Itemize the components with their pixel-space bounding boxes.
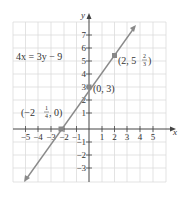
svg-text:−2: −2 bbox=[59, 132, 69, 142]
svg-text:2: 2 bbox=[112, 132, 117, 142]
point-label-0-3: (0, 3) bbox=[93, 83, 115, 95]
point-neg2-1-4-0 bbox=[59, 127, 64, 132]
svg-text:): ) bbox=[148, 55, 151, 67]
point-2-5-2-3 bbox=[112, 53, 117, 58]
svg-text:−2: −2 bbox=[76, 150, 86, 160]
graph: −5 −4 −3 −2 −1 1 2 3 4 5 7 6 5 4 3 2 1 −… bbox=[0, 0, 188, 198]
axes bbox=[13, 17, 172, 182]
y-axis-label: y bbox=[80, 10, 85, 20]
point-label-2-5-2-3: (2, 5 2 3 ) bbox=[118, 53, 151, 67]
point-label-neg2-1-4-0: (−2 1 4 , 0) bbox=[21, 105, 62, 119]
svg-text:(−2: (−2 bbox=[21, 107, 35, 119]
line-arrow-top-icon bbox=[130, 25, 136, 32]
point-0-3 bbox=[87, 85, 92, 90]
svg-text:4: 4 bbox=[45, 113, 48, 119]
svg-text:−3: −3 bbox=[76, 163, 86, 173]
x-tick-labels: −5 −4 −3 −2 −1 1 2 3 4 5 bbox=[21, 132, 156, 142]
svg-text:−5: −5 bbox=[21, 132, 31, 142]
svg-text:3: 3 bbox=[125, 132, 130, 142]
svg-text:, 0): , 0) bbox=[49, 107, 62, 119]
y-axis-arrow-icon bbox=[87, 13, 92, 19]
svg-text:−4: −4 bbox=[33, 132, 43, 142]
svg-text:4: 4 bbox=[138, 132, 143, 142]
svg-text:6: 6 bbox=[82, 43, 87, 53]
svg-text:−1: −1 bbox=[76, 137, 86, 147]
svg-text:1: 1 bbox=[82, 108, 87, 118]
svg-text:5: 5 bbox=[82, 56, 87, 66]
x-axis-label: x bbox=[172, 127, 177, 137]
svg-text:4: 4 bbox=[82, 69, 87, 79]
svg-text:3: 3 bbox=[143, 61, 146, 67]
svg-text:(2, 5: (2, 5 bbox=[118, 55, 136, 67]
svg-text:5: 5 bbox=[151, 132, 156, 142]
equation-label: 4x = 3y − 9 bbox=[16, 51, 62, 62]
svg-text:−3: −3 bbox=[46, 132, 56, 142]
svg-text:1: 1 bbox=[100, 132, 105, 142]
svg-text:7: 7 bbox=[82, 30, 87, 40]
svg-text:1: 1 bbox=[45, 105, 48, 111]
svg-text:2: 2 bbox=[143, 53, 146, 59]
svg-text:3: 3 bbox=[82, 82, 87, 92]
